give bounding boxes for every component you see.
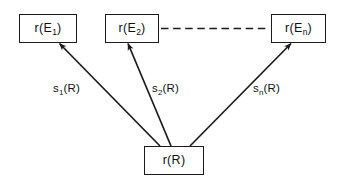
node-r-en-label: r(En) — [285, 22, 312, 35]
diagram-canvas: r(E1) r(E2) r(En) r(R) s1(R) s2(R) sn(R) — [0, 0, 344, 185]
edge-s2-line — [128, 44, 171, 147]
node-r-e1[interactable]: r(E1) — [19, 14, 77, 43]
edge-label-sn: sn(R) — [253, 83, 280, 95]
node-r-e2-label: r(E2) — [119, 22, 146, 35]
node-r-e1-label: r(E1) — [35, 22, 62, 35]
edge-label-s2: s2(R) — [152, 83, 179, 95]
edge-sn-line — [190, 44, 291, 147]
node-r-r[interactable]: r(R) — [144, 146, 204, 175]
node-r-en[interactable]: r(En) — [271, 14, 326, 43]
node-r-e2[interactable]: r(E2) — [105, 14, 159, 43]
node-r-r-label: r(R) — [163, 154, 186, 167]
edge-s1-line — [60, 44, 161, 147]
edge-label-s1: s1(R) — [53, 83, 80, 95]
